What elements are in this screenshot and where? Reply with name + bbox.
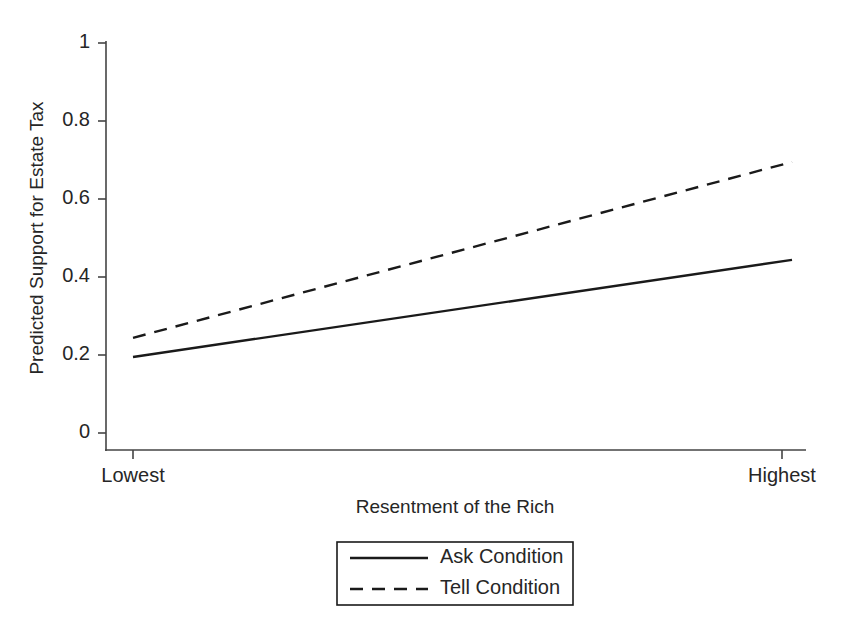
y-axis-title: Predicted Support for Estate Tax: [26, 101, 47, 375]
chart-legend: Ask Condition Tell Condition: [337, 542, 573, 605]
line-chart: 1 0.8 0.6 0.4 0.2 0 Predicted Support fo…: [0, 0, 845, 637]
plot-area: [133, 162, 792, 357]
y-tick-label-1: 1: [79, 30, 90, 52]
series-line-tell-condition: [133, 162, 792, 338]
chart-figure: 1 0.8 0.6 0.4 0.2 0 Predicted Support fo…: [0, 0, 845, 637]
x-axis: Lowest Highest Resentment of the Rich: [101, 450, 816, 517]
y-tick-label-0: 0: [79, 420, 90, 442]
legend-label-ask-condition: Ask Condition: [440, 545, 563, 567]
series-line-ask-condition: [133, 260, 792, 357]
x-axis-title: Resentment of the Rich: [356, 496, 555, 517]
y-axis: 1 0.8 0.6 0.4 0.2 0 Predicted Support fo…: [26, 30, 106, 451]
legend-label-tell-condition: Tell Condition: [440, 576, 560, 598]
y-tick-label-0-2: 0.2: [62, 342, 90, 364]
x-tick-label-lowest: Lowest: [101, 464, 165, 486]
x-tick-label-highest: Highest: [748, 464, 816, 486]
y-tick-label-0-8: 0.8: [62, 108, 90, 130]
y-tick-label-0-4: 0.4: [62, 264, 90, 286]
y-tick-label-0-6: 0.6: [62, 186, 90, 208]
